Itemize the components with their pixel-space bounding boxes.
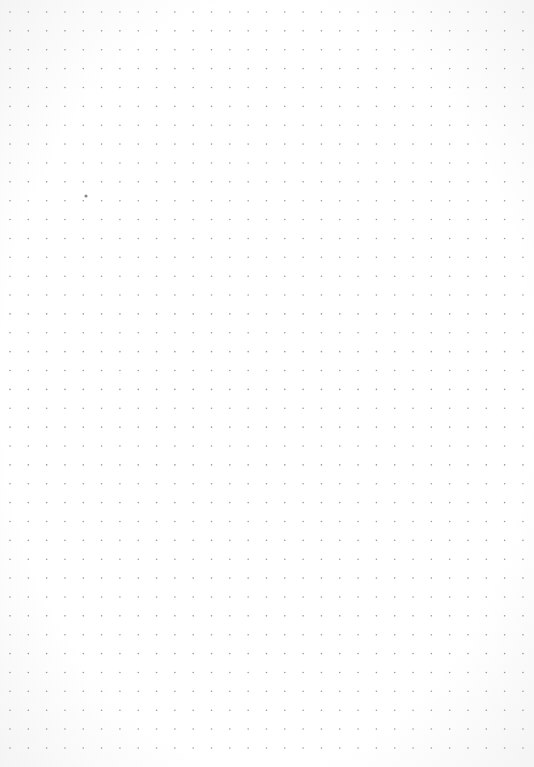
grid-dot bbox=[376, 370, 378, 372]
grid-dot bbox=[28, 596, 30, 598]
grid-dot bbox=[412, 275, 414, 277]
grid-dot bbox=[137, 30, 139, 32]
grid-dot bbox=[137, 407, 139, 409]
grid-dot bbox=[137, 691, 139, 693]
grid-dot bbox=[247, 464, 249, 466]
grid-dot bbox=[504, 672, 506, 674]
grid-dot bbox=[412, 445, 414, 447]
grid-dot bbox=[156, 691, 158, 693]
grid-dot bbox=[321, 728, 323, 730]
grid-dot bbox=[284, 483, 286, 485]
grid-dot bbox=[82, 540, 84, 542]
grid-dot bbox=[82, 257, 84, 259]
grid-dot bbox=[174, 502, 176, 504]
grid-dot bbox=[467, 370, 469, 372]
grid-dot bbox=[82, 332, 84, 334]
grid-dot bbox=[431, 143, 433, 145]
grid-dot bbox=[101, 219, 103, 221]
grid-dot bbox=[394, 87, 396, 89]
grid-dot bbox=[9, 87, 11, 89]
grid-dot bbox=[46, 332, 48, 334]
grid-dot bbox=[321, 615, 323, 617]
grid-dot bbox=[137, 747, 139, 749]
grid-dot bbox=[9, 558, 11, 560]
grid-dot bbox=[137, 634, 139, 636]
grid-dot bbox=[522, 11, 524, 13]
grid-dot bbox=[504, 219, 506, 221]
grid-dot bbox=[431, 106, 433, 108]
grid-dot bbox=[522, 68, 524, 70]
grid-dot bbox=[284, 709, 286, 711]
grid-dot bbox=[376, 483, 378, 485]
grid-dot bbox=[28, 332, 30, 334]
grid-dot bbox=[119, 68, 121, 70]
grid-dot bbox=[247, 653, 249, 655]
grid-dot bbox=[412, 68, 414, 70]
grid-dot bbox=[376, 502, 378, 504]
grid-dot bbox=[119, 691, 121, 693]
grid-dot bbox=[266, 407, 268, 409]
grid-dot bbox=[467, 426, 469, 428]
grid-dot bbox=[211, 313, 213, 315]
grid-dot bbox=[211, 407, 213, 409]
grid-dot bbox=[394, 162, 396, 164]
grid-dot bbox=[174, 728, 176, 730]
grid-dot bbox=[504, 445, 506, 447]
grid-dot bbox=[467, 728, 469, 730]
grid-dot bbox=[211, 634, 213, 636]
grid-dot bbox=[28, 615, 30, 617]
grid-dot bbox=[412, 257, 414, 259]
grid-dot bbox=[82, 483, 84, 485]
grid-dot bbox=[229, 275, 231, 277]
grid-dot bbox=[9, 540, 11, 542]
grid-dot bbox=[82, 275, 84, 277]
grid-dot bbox=[174, 294, 176, 296]
grid-dot bbox=[412, 332, 414, 334]
grid-dot bbox=[431, 313, 433, 315]
grid-dot bbox=[211, 615, 213, 617]
grid-dot bbox=[302, 106, 304, 108]
grid-dot bbox=[174, 238, 176, 240]
stray-mark bbox=[84, 194, 87, 197]
grid-dot bbox=[28, 219, 30, 221]
grid-dot bbox=[211, 162, 213, 164]
grid-dot bbox=[357, 691, 359, 693]
grid-dot bbox=[101, 351, 103, 353]
grid-dot bbox=[28, 143, 30, 145]
grid-dot bbox=[64, 521, 66, 523]
grid-dot bbox=[467, 464, 469, 466]
grid-dot bbox=[357, 87, 359, 89]
grid-dot bbox=[9, 521, 11, 523]
grid-dot bbox=[302, 200, 304, 202]
grid-dot bbox=[339, 219, 341, 221]
grid-dot bbox=[339, 294, 341, 296]
grid-dot bbox=[449, 257, 451, 259]
grid-dot bbox=[504, 558, 506, 560]
grid-dot bbox=[504, 11, 506, 13]
grid-dot bbox=[412, 313, 414, 315]
grid-dot bbox=[156, 143, 158, 145]
grid-dot bbox=[174, 540, 176, 542]
grid-dot bbox=[137, 370, 139, 372]
grid-dot bbox=[101, 615, 103, 617]
grid-dot bbox=[119, 370, 121, 372]
grid-dot bbox=[266, 68, 268, 70]
grid-dot bbox=[376, 238, 378, 240]
grid-dot bbox=[412, 596, 414, 598]
grid-dot bbox=[119, 106, 121, 108]
grid-dot bbox=[82, 143, 84, 145]
grid-dot bbox=[28, 709, 30, 711]
grid-dot bbox=[9, 162, 11, 164]
grid-dot bbox=[449, 558, 451, 560]
grid-dot bbox=[46, 68, 48, 70]
grid-dot bbox=[101, 313, 103, 315]
grid-dot bbox=[357, 389, 359, 391]
grid-dot bbox=[302, 49, 304, 51]
grid-dot bbox=[28, 464, 30, 466]
grid-dot bbox=[321, 200, 323, 202]
grid-dot bbox=[522, 389, 524, 391]
grid-dot bbox=[266, 200, 268, 202]
grid-dot bbox=[522, 445, 524, 447]
grid-dot bbox=[211, 483, 213, 485]
grid-dot bbox=[64, 181, 66, 183]
